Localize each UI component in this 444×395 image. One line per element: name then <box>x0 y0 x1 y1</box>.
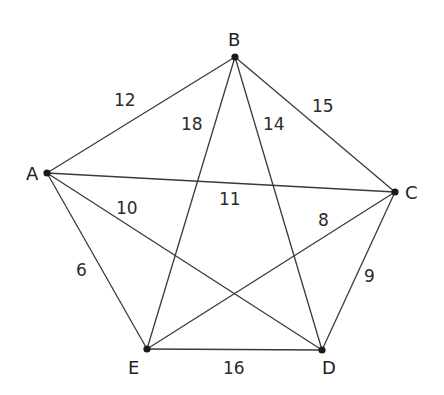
node-d-dot <box>318 346 325 353</box>
node-label-c: C <box>405 182 418 203</box>
edge-weight-a-d: 10 <box>116 198 138 218</box>
edge-weight-a-e: 6 <box>76 260 87 280</box>
edge-a-b <box>47 57 235 173</box>
edge-weight-c-d: 9 <box>364 266 375 286</box>
edge-c-e <box>147 192 395 349</box>
edge-weight-b-d: 14 <box>263 114 285 134</box>
edge-weights-group: 12111061514189816 <box>76 90 375 378</box>
edge-b-c <box>235 57 395 192</box>
node-label-b: B <box>228 29 240 50</box>
node-label-d: D <box>322 357 336 378</box>
edge-d-e <box>147 349 322 350</box>
edge-weight-b-e: 18 <box>181 114 203 134</box>
node-e-dot <box>143 345 150 352</box>
node-b-dot <box>231 53 238 60</box>
edge-weight-b-c: 15 <box>312 96 334 116</box>
edge-weight-c-e: 8 <box>318 210 329 230</box>
node-a-dot <box>43 169 50 176</box>
node-c-dot <box>391 188 398 195</box>
node-label-a: A <box>26 163 39 184</box>
edge-a-d <box>47 173 322 350</box>
node-label-e: E <box>128 357 139 378</box>
edge-weight-a-c: 11 <box>219 189 241 209</box>
weighted-graph-diagram: 12111061514189816 ABCDE <box>0 0 444 395</box>
edge-weight-d-e: 16 <box>223 358 245 378</box>
edge-b-d <box>235 57 322 350</box>
edge-weight-a-b: 12 <box>114 90 136 110</box>
